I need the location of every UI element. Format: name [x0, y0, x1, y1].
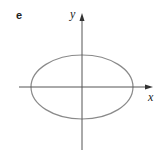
y-axis-arrow-icon — [80, 13, 85, 21]
ellipse-diagram — [0, 0, 166, 155]
x-axis-arrow-icon — [145, 85, 153, 90]
